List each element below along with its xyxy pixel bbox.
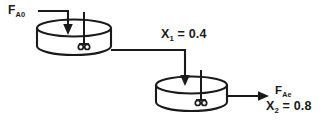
exit-conversion-subscript: 2 bbox=[275, 106, 279, 115]
feed-flow-symbol: F bbox=[8, 3, 16, 17]
process-flow-diagram: FA0 X1 = 0.4 FAe X2 = 0.8 bbox=[0, 0, 325, 126]
reactor-1-impeller bbox=[78, 44, 89, 50]
feed-stream-arrowhead bbox=[63, 24, 73, 35]
feed-flow-subscript: A0 bbox=[16, 10, 26, 19]
reactor-1-vessel bbox=[37, 20, 111, 56]
reactor-2-impeller bbox=[195, 100, 206, 106]
exit-flow-subscript: Ae bbox=[282, 91, 291, 99]
interstage-stream-line bbox=[111, 50, 185, 78]
exit-conversion-symbol: X bbox=[266, 99, 275, 113]
reactor-2-vessel bbox=[156, 77, 227, 112]
exit-conversion-label: X2 = 0.8 bbox=[266, 100, 312, 113]
exit-flow-label: FAe bbox=[275, 85, 291, 97]
feed-flow-label: FA0 bbox=[8, 4, 25, 16]
intermediate-conversion-symbol: X bbox=[161, 27, 170, 41]
intermediate-conversion-value: = 0.4 bbox=[174, 27, 207, 41]
exit-conversion-value: = 0.8 bbox=[279, 99, 312, 113]
intermediate-conversion-label: X1 = 0.4 bbox=[161, 28, 207, 41]
intermediate-conversion-subscript: 1 bbox=[170, 34, 174, 43]
